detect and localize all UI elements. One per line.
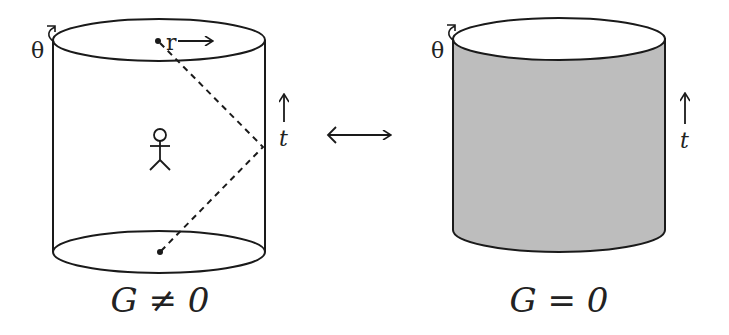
right-cylinder-body [453, 39, 665, 252]
angle-label-right: θ [431, 38, 444, 63]
left-caption: G ≠ 0 [111, 280, 210, 320]
light-ray-dashed [160, 43, 263, 252]
right-caption: G = 0 [510, 280, 609, 320]
observer-stick-figure-icon [150, 129, 170, 170]
time-label-right: t [680, 128, 689, 153]
top-center-dot [155, 38, 161, 44]
bottom-center-dot [157, 249, 163, 255]
time-label: t [279, 126, 288, 151]
duality-arrow [328, 127, 390, 143]
right-cylinder: θ t G = 0 [431, 18, 689, 320]
angle-label: θ [31, 38, 44, 63]
right-cylinder-top-disk [453, 18, 665, 60]
duality-diagram: r θ t G ≠ 0 θ t G = 0 [0, 0, 729, 335]
left-cylinder: r θ t G ≠ 0 [31, 19, 288, 320]
radius-label: r [166, 30, 177, 55]
